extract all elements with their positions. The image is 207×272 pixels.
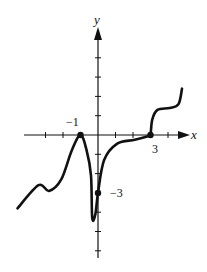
y-axis-label: y xyxy=(92,12,100,27)
marked-point xyxy=(77,132,83,138)
axes xyxy=(24,27,190,258)
marked-point xyxy=(95,190,101,196)
tick-label-y-neg3: −3 xyxy=(110,186,123,200)
marked-point xyxy=(147,132,153,138)
ticks xyxy=(46,39,169,251)
function-graph: x y −1 3 −3 xyxy=(0,0,207,272)
x-axis-arrow-icon xyxy=(178,131,190,139)
x-axis-label: x xyxy=(190,127,197,142)
tick-label-x-neg1: −1 xyxy=(66,115,79,129)
tick-label-x-3: 3 xyxy=(152,142,158,156)
